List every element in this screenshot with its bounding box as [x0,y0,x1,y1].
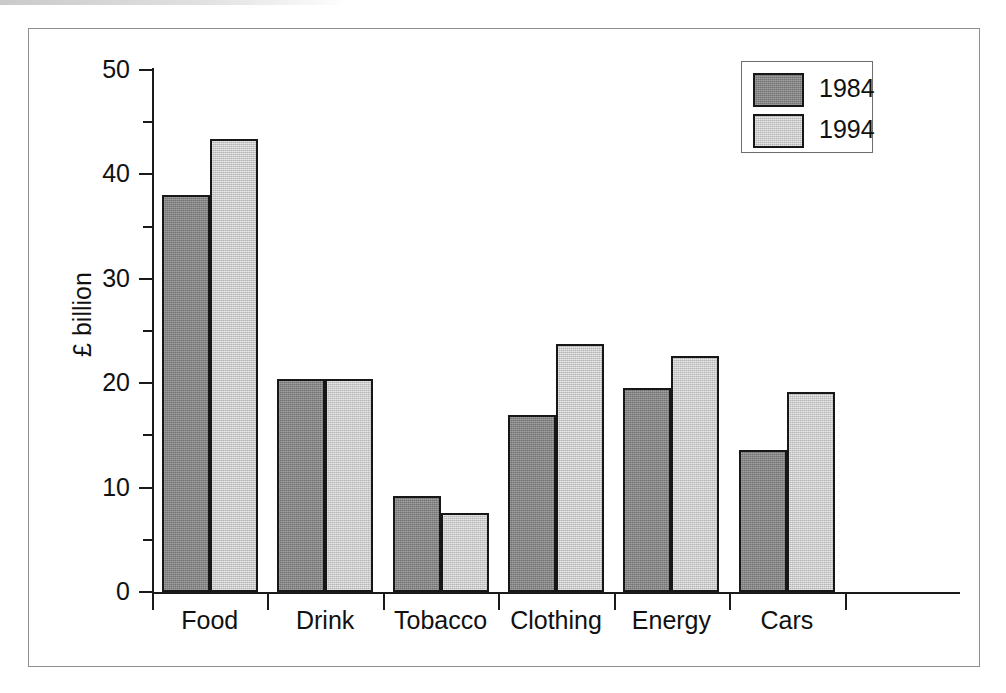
bar-tobacco-1984 [393,496,441,592]
y-tick-minor [143,121,152,123]
y-tick-minor [143,434,152,436]
y-axis-line [152,68,154,594]
y-tick-minor [143,330,152,332]
y-tick-major [139,278,152,280]
bar-energy-1994 [671,356,719,592]
bar-food-1984 [162,195,210,592]
y-tick-label: 50 [88,57,130,82]
x-axis-label-cars: Cars [729,608,844,633]
bar-cars-1984 [739,450,787,592]
y-tick-label: 40 [88,161,130,186]
x-tick [845,594,847,610]
bar-drink-1984 [277,379,325,592]
x-axis-label-clothing: Clothing [498,608,613,633]
y-tick-label: 30 [88,266,130,291]
y-tick-label: 10 [88,475,130,500]
y-tick-major [139,487,152,489]
legend-swatch-1984 [753,73,804,107]
bar-food-1994 [210,139,258,592]
y-tick-major [139,69,152,71]
bar-tobacco-1994 [441,513,489,592]
x-axis-label-energy: Energy [614,608,729,633]
bar-drink-1994 [325,379,373,592]
x-axis-label-drink: Drink [267,608,382,633]
bar-cars-1994 [787,392,835,592]
y-tick-major [139,382,152,384]
chart-legend: 19841994 [741,61,873,153]
legend-swatch-1994 [753,114,804,148]
y-tick-minor [143,226,152,228]
bar-clothing-1984 [508,415,556,592]
bar-clothing-1994 [556,344,604,592]
legend-label-1984: 1984 [819,71,875,105]
y-tick-label: 20 [88,370,130,395]
legend-label-1994: 1994 [819,112,875,146]
x-axis-label-tobacco: Tobacco [383,608,498,633]
x-axis-label-food: Food [152,608,267,633]
x-axis-line [152,592,960,594]
y-tick-major [139,173,152,175]
y-tick-minor [143,539,152,541]
bar-chart: £ billion 01020304050 FoodDrinkTobaccoCl… [0,0,1006,693]
y-tick-label: 0 [88,579,130,604]
bar-energy-1984 [623,388,671,592]
y-tick-major [139,591,152,593]
